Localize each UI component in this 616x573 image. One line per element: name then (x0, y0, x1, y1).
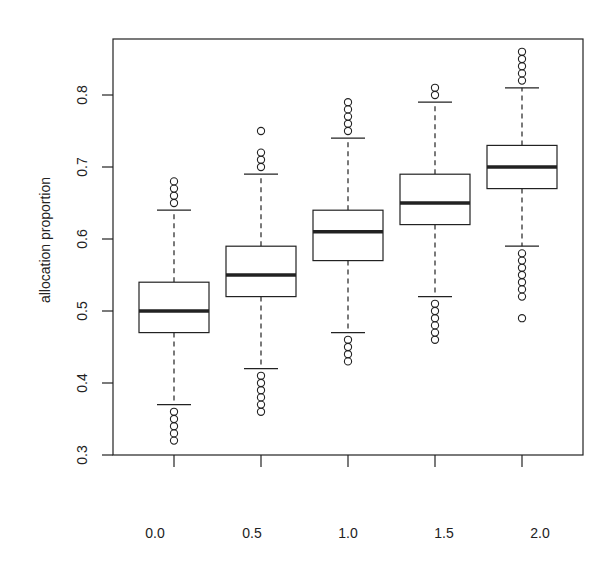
outlier-point (344, 336, 351, 343)
box-1-5 (400, 84, 470, 343)
outlier-point (344, 127, 351, 134)
outlier-point (431, 307, 438, 314)
iqr-box (400, 174, 470, 224)
outlier-point (518, 48, 525, 55)
boxplot-chart: 0.30.40.50.60.70.8 0.00.51.01.52.0 alloc… (0, 0, 616, 573)
outlier-point (344, 358, 351, 365)
outlier-point (431, 84, 438, 91)
box-1-0 (313, 99, 383, 365)
y-tick-label: 0.3 (74, 445, 90, 465)
outlier-point (518, 271, 525, 278)
outlier-point (257, 408, 264, 415)
y-axis: 0.30.40.50.60.70.8 (74, 85, 113, 465)
box-0-5 (226, 127, 296, 415)
x-tick-label: 0.5 (242, 525, 262, 541)
outlier-point (518, 286, 525, 293)
outlier-point (431, 336, 438, 343)
outlier-point (257, 379, 264, 386)
outlier-point (257, 372, 264, 379)
outlier-point (257, 387, 264, 394)
outlier-point (257, 156, 264, 163)
outlier-point (431, 322, 438, 329)
outlier-point (431, 329, 438, 336)
iqr-box (139, 282, 209, 332)
outlier-point (170, 415, 177, 422)
outlier-point (170, 185, 177, 192)
outlier-point (344, 99, 351, 106)
outlier-point (431, 91, 438, 98)
outlier-point (257, 401, 264, 408)
outlier-point (257, 394, 264, 401)
y-tick-label: 0.4 (74, 373, 90, 393)
outlier-point (518, 279, 525, 286)
outlier-point (518, 77, 525, 84)
outlier-point (518, 63, 525, 70)
outlier-point (170, 408, 177, 415)
outlier-point (344, 343, 351, 350)
x-tick-label: 1.0 (338, 525, 358, 541)
outlier-point (170, 430, 177, 437)
outlier-point (170, 178, 177, 185)
outlier-point (257, 149, 264, 156)
outlier-point (431, 300, 438, 307)
iqr-box (313, 210, 383, 260)
y-tick-label: 0.5 (74, 301, 90, 321)
x-tick-label: 2.0 (530, 525, 550, 541)
x-tick-label: 0.0 (145, 525, 165, 541)
outlier-point (344, 351, 351, 358)
outlier-point (170, 199, 177, 206)
y-tick-label: 0.8 (74, 85, 90, 105)
outlier-point (344, 120, 351, 127)
y-tick-label: 0.6 (74, 229, 90, 249)
outlier-point (518, 257, 525, 264)
outlier-point (170, 423, 177, 430)
outlier-point (344, 113, 351, 120)
outlier-point (257, 163, 264, 170)
y-axis-title: allocation proportion (37, 177, 53, 303)
box-0-0 (139, 178, 209, 444)
iqr-box (226, 246, 296, 296)
outlier-point (344, 106, 351, 113)
outlier-point (170, 437, 177, 444)
outlier-point (518, 250, 525, 257)
x-tick-label: 1.5 (434, 525, 454, 541)
outlier-point (518, 315, 525, 322)
y-tick-label: 0.7 (74, 157, 90, 177)
outlier-point (257, 127, 264, 134)
outlier-point (518, 264, 525, 271)
outlier-point (518, 55, 525, 62)
outlier-point (170, 192, 177, 199)
boxes (139, 48, 557, 444)
outlier-point (431, 315, 438, 322)
outlier-point (518, 293, 525, 300)
x-axis: 0.00.51.01.52.0 (145, 455, 550, 541)
outlier-point (518, 70, 525, 77)
box-2-0 (487, 48, 557, 322)
